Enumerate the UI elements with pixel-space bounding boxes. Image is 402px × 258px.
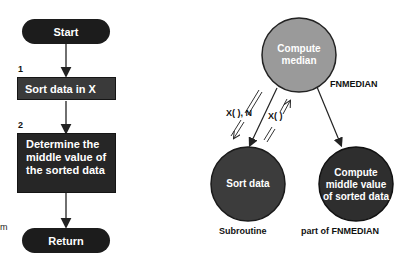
return-label: Return (48, 235, 83, 247)
top-module-caption: FNMEDIAN (330, 79, 378, 89)
start-terminal: Start (22, 19, 110, 44)
step-2-label: Determine the middle value of the sorted… (26, 138, 106, 176)
step-2-number: 2 (18, 120, 23, 130)
top-module-label: Compute median (272, 40, 326, 70)
return-terminal: Return (22, 228, 110, 253)
call-arrow-right (317, 87, 341, 145)
step-2-box: Determine the middle value of the sorted… (17, 133, 116, 193)
right-module-caption: part of FNMEDIAN (301, 226, 379, 236)
edge-text-fragment: m (0, 222, 8, 232)
step-1-label: Sort data in X (25, 83, 96, 95)
left-module-label: Sort data (226, 170, 270, 198)
left-module-caption: Subroutine (219, 226, 267, 236)
data-flow-down-label: X( ), N (226, 108, 252, 118)
data-flow-up-label: X( ) (268, 111, 283, 121)
step-1-box: Sort data in X (17, 77, 116, 100)
diagram-canvas: Start 1 Sort data in X 2 Determine the m… (0, 0, 402, 258)
right-module-label: Compute middle value of sorted data (320, 162, 392, 208)
start-label: Start (53, 26, 78, 38)
step-1-number: 1 (18, 64, 23, 74)
